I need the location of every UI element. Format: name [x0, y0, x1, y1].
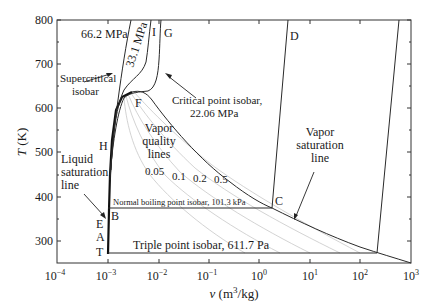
label-quality-0-5: 0.5: [214, 173, 228, 185]
label-critical-pressure: 22.06 MPa: [190, 107, 238, 119]
label-quality-0-1: 0.1: [172, 170, 186, 182]
label-liquid: Liquid: [61, 152, 93, 166]
label-vapor-saturation: saturation: [296, 138, 343, 152]
point-I: I: [152, 25, 156, 39]
point-A: A: [96, 230, 105, 244]
liquid-saturation-line: [108, 92, 132, 254]
point-D: D: [290, 29, 299, 43]
point-G: G: [164, 26, 173, 40]
label-quality-0-2: 0.2: [193, 172, 207, 184]
x-axis-label: v (m3/kg): [210, 285, 259, 301]
x-tick-1e-3: 10−3: [96, 268, 117, 283]
y-tick-500: 500: [35, 145, 53, 159]
label-supercritical: Supercritical: [60, 72, 116, 84]
label-line: line: [61, 178, 79, 192]
x-tick-1e1: 101: [302, 268, 318, 283]
label-supercritical-isobar: isobar: [72, 85, 99, 97]
y-tick-300: 300: [35, 234, 53, 248]
x-tick-1e3: 103: [403, 268, 419, 283]
point-B: B: [111, 209, 119, 223]
point-C: C: [275, 194, 283, 208]
x-tick-1e-1: 10−1: [197, 268, 218, 283]
y-tick-700: 700: [35, 57, 53, 71]
point-H: H: [99, 139, 108, 153]
x-tick-1e2: 102: [352, 268, 368, 283]
point-T: T: [96, 245, 104, 259]
point-E: E: [96, 217, 103, 231]
label-lines: lines: [148, 147, 171, 161]
label-quality: quality: [142, 134, 175, 148]
plot-frame: [57, 20, 411, 263]
y-tick-600: 600: [35, 101, 53, 115]
tv-diagram: 800 700 600 500 400 300 10−4 10−3 10−2 1…: [0, 0, 434, 307]
x-tick-1e-4: 10−4: [45, 268, 66, 283]
label-vapor-quality: Vapor: [145, 121, 174, 135]
label-normal-boiling-isobar: Normal boiling point isobar, 101.3 kPa: [113, 197, 246, 207]
x-tick-1e-2: 10−2: [147, 268, 168, 283]
label-66-2-mpa: 66.2 MPa: [81, 27, 128, 41]
point-F: F: [135, 96, 142, 110]
label-quality-0-05: 0.05: [145, 165, 165, 177]
x-tick-labels: 10−4 10−3 10−2 10−1 100 101 102 103: [45, 268, 419, 283]
y-tick-400: 400: [35, 190, 53, 204]
y-tick-800: 800: [35, 13, 53, 27]
x-tick-1e0: 100: [251, 268, 267, 283]
label-triple-point-isobar: Triple point isobar, 611.7 Pa: [133, 238, 270, 252]
label-vapor-line: line: [311, 151, 329, 165]
label-saturation: saturation: [61, 165, 108, 179]
y-axis-label: T (K): [14, 128, 29, 157]
label-critical-isobar: Critical point isobar,: [172, 94, 263, 106]
label-vapor-sat: Vapor: [306, 125, 335, 139]
y-tick-labels: 800 700 600 500 400 300: [35, 13, 53, 248]
